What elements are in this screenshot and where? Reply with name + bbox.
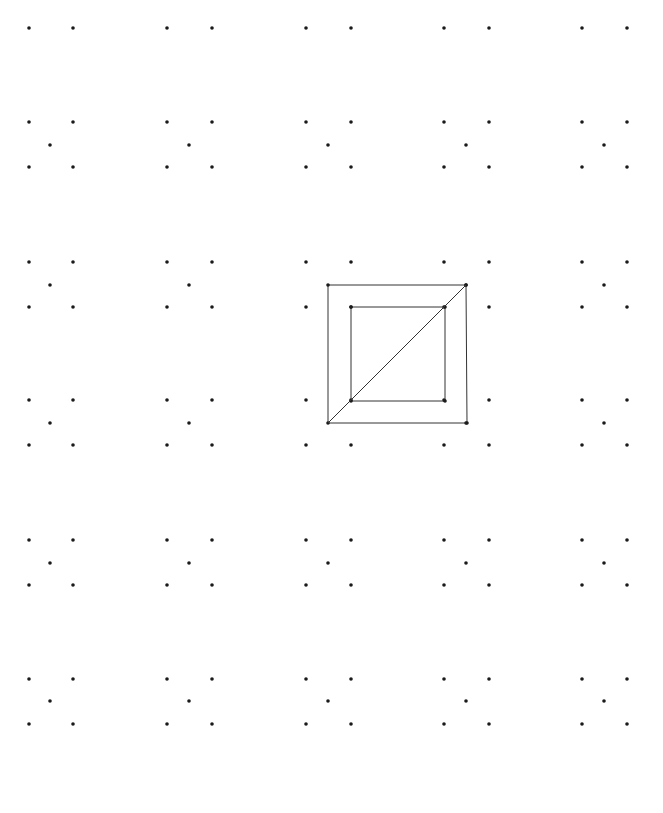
grid-dot [165,398,169,402]
vertex-dot [465,421,469,425]
grid-dot [487,120,491,124]
grid-dot [210,677,214,681]
grid-dot [304,443,308,447]
center-dot [48,143,52,147]
center-dot [187,283,191,287]
center-dot [602,143,606,147]
grid-dot [625,165,629,169]
grid-dot [71,443,75,447]
dot-grid-diagram [0,0,663,813]
grid-dot [27,538,31,542]
grid-dot [304,722,308,726]
center-dot [326,561,330,565]
grid-dot [27,443,31,447]
grid-dot [580,165,584,169]
grid-dot [304,165,308,169]
grid-dot [210,260,214,264]
center-dot [48,421,52,425]
grid-dot [349,722,353,726]
grid-dot [487,305,491,309]
vertex-dot [349,305,353,309]
grid-dot [442,26,446,30]
grid-dot [349,120,353,124]
grid-dot [487,677,491,681]
center-dot [326,143,330,147]
grid-dot [580,443,584,447]
grid-dot [210,722,214,726]
grid-dot [210,165,214,169]
grid-dot [165,538,169,542]
grid-dot [625,398,629,402]
grid-dot [580,398,584,402]
grid-dot [442,443,446,447]
center-dot [602,699,606,703]
center-dot [48,561,52,565]
grid-dot [304,120,308,124]
grid-dot [580,120,584,124]
grid-dot [625,120,629,124]
grid-dot [349,538,353,542]
grid-dot [210,26,214,30]
center-dot [187,561,191,565]
grid-dot [165,260,169,264]
grid-dot [349,26,353,30]
grid-dot [625,305,629,309]
grid-dot [210,398,214,402]
grid-dot [71,722,75,726]
grid-dot [487,26,491,30]
grid-dot [580,305,584,309]
grid-dot [27,305,31,309]
grid-dot [625,722,629,726]
grid-dot [349,260,353,264]
inner-square [351,307,445,401]
grid-dot [487,165,491,169]
grid-dot [442,538,446,542]
grid-dot [304,260,308,264]
grid-dot [625,443,629,447]
grid-dot [580,677,584,681]
grid-dot [27,677,31,681]
grid-dot [27,165,31,169]
grid-dot [27,722,31,726]
grid-dot [442,120,446,124]
vertex-dot [326,283,330,287]
grid-dot [304,305,308,309]
grid-dot [71,305,75,309]
grid-dot [304,583,308,587]
nested-squares-figure [326,283,469,425]
grid-dot [165,26,169,30]
grid-dot [487,443,491,447]
grid-dot [165,722,169,726]
grid-dot [27,26,31,30]
grid-dot [71,260,75,264]
center-dot [602,283,606,287]
grid-dot [71,583,75,587]
grid-dot [580,538,584,542]
grid-dot [442,260,446,264]
grid-dot [210,538,214,542]
grid-dot [304,677,308,681]
grid-dot [304,26,308,30]
grid-dot [487,398,491,402]
grid-dot [165,165,169,169]
grid-dot [625,677,629,681]
grid-dot [210,583,214,587]
grid-dot [210,305,214,309]
grid-dot [487,583,491,587]
grid-dot [27,120,31,124]
center-dot [48,283,52,287]
grid-dot [580,26,584,30]
grid-dot [442,722,446,726]
grid-dot [27,398,31,402]
grid-dot [487,722,491,726]
grid-dot [165,120,169,124]
grid-dot [71,677,75,681]
grid-dot [625,260,629,264]
grid-dot [442,165,446,169]
grid-dot [304,398,308,402]
center-dot [48,699,52,703]
grid-dot [71,538,75,542]
grid-dot [625,26,629,30]
grid-dot [349,677,353,681]
center-dot [464,561,468,565]
